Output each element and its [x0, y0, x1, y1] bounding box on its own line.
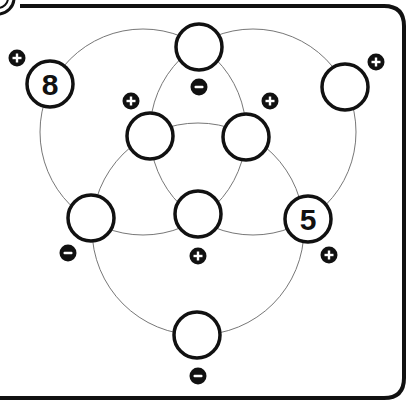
venn-circles: [40, 29, 356, 335]
minus-icon: [60, 245, 77, 262]
node-lower-right[interactable]: 5: [285, 196, 331, 242]
node-circle[interactable]: [176, 24, 222, 70]
node-circle[interactable]: [175, 191, 221, 237]
node-mid-right[interactable]: [223, 114, 269, 160]
node-value: 8: [42, 68, 59, 101]
node-lower-left[interactable]: [68, 195, 114, 241]
node-top[interactable]: [176, 24, 222, 70]
node-circle[interactable]: [174, 312, 220, 358]
node-circle[interactable]: [322, 64, 368, 110]
minus-icon: [190, 368, 207, 385]
node-center[interactable]: [175, 191, 221, 237]
plus-icon: [190, 248, 207, 265]
minus-icon: [191, 79, 208, 96]
node-value: 5: [300, 203, 317, 236]
node-mid-left[interactable]: [127, 113, 173, 159]
plus-icon: [262, 93, 279, 110]
node-circle[interactable]: [223, 114, 269, 160]
plus-icon: [9, 50, 26, 67]
node-circle[interactable]: [68, 195, 114, 241]
plus-icon: [321, 247, 338, 264]
number-nodes: 85: [27, 24, 368, 358]
node-top-left[interactable]: 8: [27, 61, 73, 107]
node-top-right[interactable]: [322, 64, 368, 110]
plus-icon: [368, 54, 385, 71]
puzzle-diagram: 85: [0, 0, 418, 404]
node-bottom[interactable]: [174, 312, 220, 358]
node-circle[interactable]: [127, 113, 173, 159]
plus-icon: [123, 93, 140, 110]
